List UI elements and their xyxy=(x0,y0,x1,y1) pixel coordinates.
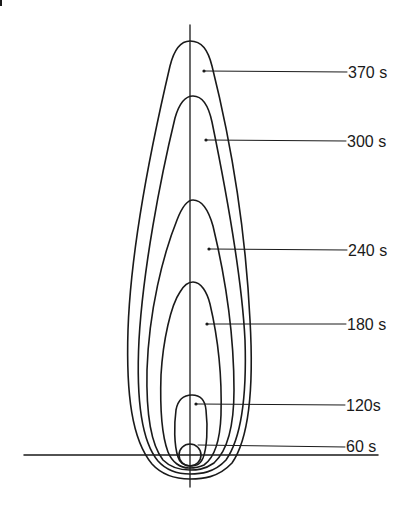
contour-180s xyxy=(161,282,221,468)
marker-300s xyxy=(204,138,207,141)
label-370s: 370 s xyxy=(348,64,387,81)
marker-240s xyxy=(207,247,210,250)
leader-240s xyxy=(209,249,347,250)
contour-300s xyxy=(138,96,245,474)
leader-60s xyxy=(198,445,345,447)
marker-370s xyxy=(202,69,205,72)
leader-300s xyxy=(206,140,346,141)
flame-growth-diagram: 370 s 300 s 240 s 180 s 120s 60 s xyxy=(0,0,414,510)
label-240s: 240 s xyxy=(348,242,387,259)
label-120s: 120s xyxy=(346,397,381,414)
leader-120s xyxy=(196,404,345,405)
marker-120s xyxy=(194,402,197,405)
marker-180s xyxy=(205,322,208,325)
label-300s: 300 s xyxy=(347,133,386,150)
label-180s: 180 s xyxy=(347,316,386,333)
corner-mark xyxy=(0,0,2,6)
leader-370s xyxy=(204,71,347,72)
label-60s: 60 s xyxy=(346,438,376,455)
